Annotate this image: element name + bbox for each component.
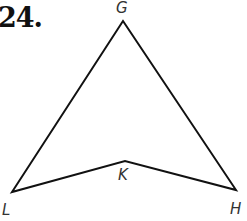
vertex-label-H: H <box>230 200 241 218</box>
vertex-label-L: L <box>2 201 10 219</box>
vertex-label-K: K <box>118 166 129 184</box>
vertex-label-G: G <box>116 0 128 17</box>
dart-figure: G H K L <box>0 0 247 221</box>
